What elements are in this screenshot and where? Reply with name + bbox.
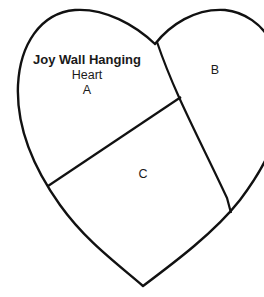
heart-pattern-diagram bbox=[0, 0, 264, 297]
piece-label-b: B bbox=[200, 63, 230, 77]
piece-label-c: C bbox=[128, 167, 158, 181]
diagram-subtitle: Heart bbox=[12, 68, 162, 82]
divider-a-c bbox=[48, 97, 181, 186]
piece-label-a: A bbox=[12, 83, 162, 97]
diagram-title: Joy Wall Hanging bbox=[12, 52, 162, 67]
